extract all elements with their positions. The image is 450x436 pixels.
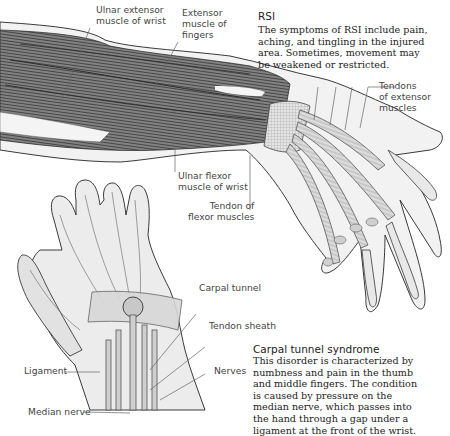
label-median-nerve: Median nerve xyxy=(28,406,91,417)
label-ulnar-flexor-muscle: Ulnar flexor muscle of wrist xyxy=(178,170,248,192)
label-tendon-sheath: Tendon sheath xyxy=(209,320,276,331)
label-extensor-muscle-fingers: Extensor muscle of fingers xyxy=(182,7,227,40)
label-carpal-tunnel: Carpal tunnel xyxy=(199,282,261,293)
label-ulnar-extensor-muscle: Ulnar extensor muscle of wrist xyxy=(96,4,166,26)
rsi-caption-title: RSI xyxy=(258,10,275,22)
rsi-caption-body: The symptoms of RSI include pain, aching… xyxy=(258,24,428,70)
carpal-caption-title: Carpal tunnel syndrome xyxy=(253,343,379,355)
label-tendons-extensor-muscles: Tendons of extensor muscles xyxy=(379,80,431,113)
carpal-caption-body: This disorder is characterized by numbne… xyxy=(253,355,417,436)
label-tendon-flexor-muscles: Tendon of flexor muscles xyxy=(188,200,254,222)
label-ligament: Ligament xyxy=(24,365,67,376)
label-nerves: Nerves xyxy=(214,365,246,376)
